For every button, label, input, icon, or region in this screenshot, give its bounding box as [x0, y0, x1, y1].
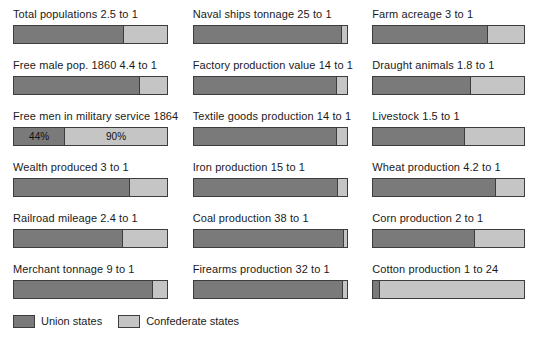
- stacked-bar: [13, 229, 168, 248]
- stacked-bar: [372, 178, 525, 197]
- bar-segment-union: [373, 26, 486, 43]
- panel-label: Free men in military service 1864: [13, 110, 181, 123]
- panel-label: Farm acreage 3 to 1: [372, 8, 538, 21]
- panel-grid: Total populations 2.5 to 1 Free male pop…: [0, 0, 538, 306]
- stacked-bar: [372, 127, 525, 146]
- panel-label: Livestock 1.5 to 1: [372, 110, 538, 123]
- panel-label: Textile goods production 14 to 1: [193, 110, 361, 123]
- bar-segment-label: 44%: [29, 132, 49, 142]
- stacked-bar: [372, 280, 525, 299]
- bar-segment-confederate: [341, 26, 347, 43]
- bar-segment-confederate: [152, 281, 167, 298]
- bar-segment-confederate: [343, 230, 347, 247]
- bar-segment-union: [14, 26, 123, 43]
- panel: Wealth produced 3 to 1: [13, 161, 181, 204]
- bar-segment-confederate: [470, 77, 524, 94]
- bar-segment-confederate: [337, 179, 346, 196]
- bar-segment-union: [373, 230, 474, 247]
- legend-item-confederate: Confederate states: [118, 315, 239, 328]
- bar-segment-union: [14, 281, 152, 298]
- panel-label: Iron production 15 to 1: [193, 161, 361, 174]
- bar-segment-union: [14, 179, 129, 196]
- bar-segment-confederate: [336, 77, 346, 94]
- panel-label: Draught animals 1.8 to 1: [372, 59, 538, 72]
- stacked-bar: [13, 76, 168, 95]
- panel-label: Coal production 38 to 1: [193, 212, 361, 225]
- panel: Draught animals 1.8 to 1: [372, 59, 538, 102]
- stacked-bar: [193, 229, 348, 248]
- panel-label: Wheat production 4.2 to 1: [372, 161, 538, 174]
- panel: Free men in military service 1864 44% 90…: [13, 110, 181, 153]
- legend-label-confederate: Confederate states: [146, 315, 239, 328]
- panel: Total populations 2.5 to 1: [13, 8, 181, 51]
- bar-segment-confederate: [129, 179, 167, 196]
- bar-segment-confederate: [487, 26, 525, 43]
- stacked-bar: [193, 178, 348, 197]
- stacked-bar: [193, 127, 348, 146]
- bar-segment-confederate: [342, 281, 347, 298]
- resource-comparison-chart: Total populations 2.5 to 1 Free male pop…: [0, 0, 538, 342]
- bar-segment-union: [194, 179, 338, 196]
- bar-segment-confederate: [139, 77, 167, 94]
- legend-swatch-confederate-icon: [118, 315, 140, 328]
- bar-segment-label: 90%: [106, 132, 126, 142]
- bar-segment-confederate: [474, 230, 524, 247]
- bar-segment-union: [194, 281, 342, 298]
- panel-label: Naval ships tonnage 25 to 1: [193, 8, 361, 21]
- bar-segment-union: [14, 77, 139, 94]
- stacked-bar: [13, 25, 168, 44]
- panel: Factory production value 14 to 1: [193, 59, 361, 102]
- stacked-bar: [193, 280, 348, 299]
- panel-label: Cotton production 1 to 24: [372, 263, 538, 276]
- panel-label: Wealth produced 3 to 1: [13, 161, 181, 174]
- stacked-bar: [372, 25, 525, 44]
- bar-segment-union: [194, 230, 343, 247]
- panel: Railroad mileage 2.4 to 1: [13, 212, 181, 255]
- bar-segment-union: [373, 128, 464, 145]
- panel: Textile goods production 14 to 1: [193, 110, 361, 153]
- panel-label: Merchant tonnage 9 to 1: [13, 263, 181, 276]
- panel-column-3: Farm acreage 3 to 1 Draught animals 1.8 …: [360, 0, 538, 306]
- panel: Farm acreage 3 to 1: [372, 8, 538, 51]
- bar-segment-confederate: [336, 128, 346, 145]
- panel: Wheat production 4.2 to 1: [372, 161, 538, 204]
- panel: Corn production 2 to 1: [372, 212, 538, 255]
- panel: Iron production 15 to 1: [193, 161, 361, 204]
- stacked-bar: [193, 76, 348, 95]
- bar-segment-confederate: [379, 281, 524, 298]
- panel: Coal production 38 to 1: [193, 212, 361, 255]
- stacked-bar: [13, 178, 168, 197]
- stacked-bar: 44% 90%: [13, 127, 168, 146]
- bar-segment-confederate: [464, 128, 524, 145]
- stacked-bar: [372, 229, 525, 248]
- legend-swatch-union-icon: [13, 315, 35, 328]
- panel: Free male pop. 1860 4.4 to 1: [13, 59, 181, 102]
- stacked-bar: [13, 280, 168, 299]
- panel-label: Railroad mileage 2.4 to 1: [13, 212, 181, 225]
- panel-column-1: Total populations 2.5 to 1 Free male pop…: [0, 0, 181, 306]
- legend-item-union: Union states: [13, 315, 102, 328]
- panel: Firearms production 32 to 1: [193, 263, 361, 306]
- bar-segment-union: [194, 26, 341, 43]
- panel-label: Firearms production 32 to 1: [193, 263, 361, 276]
- bar-segment-confederate: [122, 230, 167, 247]
- bar-segment-confederate: 90%: [64, 128, 167, 145]
- bar-segment-union: 44%: [14, 128, 64, 145]
- chart-legend: Union states Confederate states: [13, 313, 255, 329]
- panel-label: Factory production value 14 to 1: [193, 59, 361, 72]
- stacked-bar: [193, 25, 348, 44]
- panel: Cotton production 1 to 24: [372, 263, 538, 306]
- panel-label: Total populations 2.5 to 1: [13, 8, 181, 21]
- stacked-bar: [372, 76, 525, 95]
- panel: Merchant tonnage 9 to 1: [13, 263, 181, 306]
- legend-label-union: Union states: [41, 315, 102, 328]
- bar-segment-union: [373, 179, 495, 196]
- panel: Livestock 1.5 to 1: [372, 110, 538, 153]
- bar-segment-confederate: [495, 179, 524, 196]
- panel-column-2: Naval ships tonnage 25 to 1 Factory prod…: [181, 0, 361, 306]
- panel: Naval ships tonnage 25 to 1: [193, 8, 361, 51]
- bar-segment-confederate: [123, 26, 167, 43]
- bar-segment-union: [194, 128, 337, 145]
- panel-label: Corn production 2 to 1: [372, 212, 538, 225]
- bar-segment-union: [373, 77, 470, 94]
